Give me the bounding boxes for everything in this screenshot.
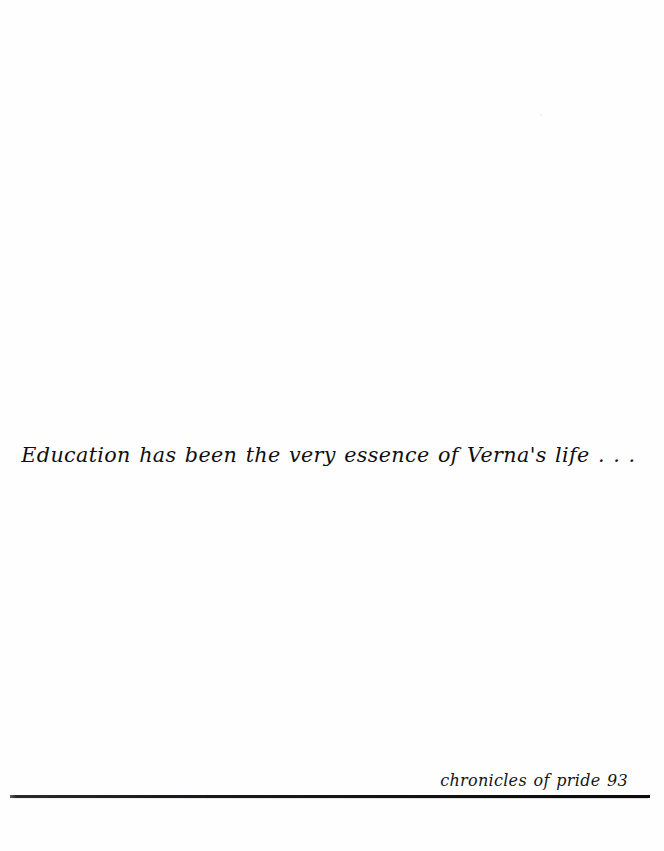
running-foot-row: chronicles of pride 93 (0, 770, 628, 792)
scanned-book-page: Education has been the very essence of V… (0, 0, 664, 851)
footer-divider-rule-shadow (12, 798, 648, 799)
scan-speck-icon (540, 114, 542, 116)
running-foot-text: chronicles of pride 93 (440, 770, 628, 792)
epigraph-block: Education has been the very essence of V… (0, 440, 636, 470)
epigraph-text: Education has been the very essence of V… (22, 440, 636, 470)
page-footer: chronicles of pride 93 (0, 770, 664, 810)
